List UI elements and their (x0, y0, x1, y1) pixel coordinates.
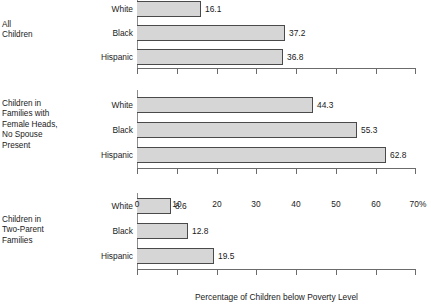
x-tick-label-30: 30 (251, 199, 260, 209)
x-tick-2-70 (415, 169, 416, 174)
category-label-white-3: White (112, 201, 133, 211)
chart-group-two-parent-families: Children in Two-Parent Families White 8.… (0, 193, 431, 288)
x-tick-label-10: 10 (172, 199, 181, 209)
category-label-white-2: White (112, 100, 133, 110)
x-tick-3-40 (296, 270, 297, 275)
x-tick-label-60: 60 (371, 199, 380, 209)
x-axis-line-3 (137, 269, 416, 270)
x-tick-1-40 (296, 69, 297, 74)
bar-value-hispanic-3: 19.5 (218, 251, 234, 261)
bar-black-1[interactable] (137, 25, 285, 41)
bar-value-white-1: 16.1 (205, 4, 221, 14)
bar-black-2[interactable] (137, 122, 357, 138)
bar-hispanic-1[interactable] (137, 49, 283, 65)
x-axis-line-1 (137, 68, 416, 69)
bar-value-black-2: 55.3 (361, 125, 377, 135)
group-label-female-head-families: Children in Families with Female Heads, … (2, 99, 58, 151)
bar-value-white-2: 44.3 (317, 100, 333, 110)
x-tick-1-70 (415, 69, 416, 74)
group-label-two-parent-families: Children in Two-Parent Families (2, 215, 44, 246)
poverty-bar-chart: All Children White 16.1 Black 37.2 Hispa… (0, 0, 431, 305)
bar-value-hispanic-1: 36.8 (287, 52, 303, 62)
x-tick-3-30 (256, 270, 257, 275)
bar-white-1[interactable] (137, 1, 201, 17)
x-tick-2-50 (336, 169, 337, 174)
bar-value-hispanic-2: 62.8 (390, 150, 406, 160)
category-label-black-2: Black (113, 125, 133, 135)
x-tick-3-70 (415, 270, 416, 275)
bar-white-3[interactable] (137, 198, 171, 214)
x-tick-3-60 (376, 270, 377, 275)
chart-group-female-head-families: Children in Families with Female Heads, … (0, 90, 431, 180)
x-tick-2-60 (376, 169, 377, 174)
x-tick-1-10 (177, 69, 178, 74)
x-axis-title: Percentage of Children below Poverty Lev… (137, 292, 416, 302)
category-label-hispanic-1: Hispanic (101, 52, 133, 62)
x-tick-1-20 (217, 69, 218, 74)
bar-white-2[interactable] (137, 97, 313, 113)
x-tick-3-0 (137, 270, 138, 275)
x-axis-line-2 (137, 168, 416, 169)
bar-value-black-3: 12.8 (192, 226, 208, 236)
x-tick-label-0: 0 (135, 199, 140, 209)
x-tick-label-40: 40 (291, 199, 300, 209)
x-tick-label-20: 20 (212, 199, 221, 209)
x-tick-3-10 (177, 270, 178, 275)
x-tick-3-50 (336, 270, 337, 275)
bar-value-black-1: 37.2 (289, 28, 305, 38)
category-label-black-1: Black (113, 28, 133, 38)
category-label-white-1: White (112, 4, 133, 14)
bar-hispanic-2[interactable] (137, 147, 386, 163)
category-label-black-3: Black (113, 226, 133, 236)
x-tick-2-10 (177, 169, 178, 174)
bar-hispanic-3[interactable] (137, 248, 214, 264)
x-tick-label-70: 70% (410, 199, 427, 209)
x-tick-1-60 (376, 69, 377, 74)
chart-group-all-children: All Children White 16.1 Black 37.2 Hispa… (0, 0, 431, 82)
category-label-hispanic-3: Hispanic (101, 251, 133, 261)
x-tick-1-30 (256, 69, 257, 74)
x-tick-3-20 (217, 270, 218, 275)
x-tick-2-0 (137, 169, 138, 174)
x-tick-2-40 (296, 169, 297, 174)
category-label-hispanic-2: Hispanic (101, 150, 133, 160)
group-label-all-children: All Children (2, 20, 33, 41)
x-tick-label-50: 50 (331, 199, 340, 209)
x-tick-1-50 (336, 69, 337, 74)
bar-black-3[interactable] (137, 223, 188, 239)
x-tick-2-20 (217, 169, 218, 174)
x-tick-2-30 (256, 169, 257, 174)
x-tick-1-0 (137, 69, 138, 74)
